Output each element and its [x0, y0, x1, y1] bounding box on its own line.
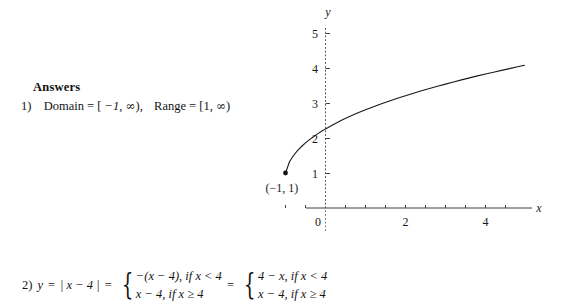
answer-1-index: 1) [21, 99, 31, 113]
answer-1-number: 1) [21, 99, 31, 113]
x-axis-label: x [535, 201, 542, 215]
y-tick-label-4: 4 [312, 62, 318, 76]
answer-2-equals-3: = [227, 278, 234, 293]
answer-2-case-1-line-1: −(x − 4), if x < 4 [136, 267, 222, 285]
endpoint-label: (−1, 1) [266, 181, 299, 195]
x-tick-label-4: 4 [483, 215, 489, 229]
answer-2-equals-2: = [105, 278, 112, 293]
answer-item-2: 2) y = | x − 4 | = { −(x − 4), if x < 4 … [22, 267, 327, 303]
y-axis-ticks [326, 34, 331, 174]
y-tick-label-1: 1 [312, 167, 318, 181]
answer-2-case-2-line-2: x − 4, if x ≥ 4 [258, 285, 327, 303]
answer-1-equals-1: = [87, 99, 94, 113]
page-title: Answers [33, 80, 80, 95]
function-graph: 5 4 3 2 1 0 2 4 y x (−1, 1) [262, 0, 572, 240]
answer-1-domain-lower: −1 [105, 99, 120, 113]
answer-1-separator: , [140, 99, 143, 113]
graph-svg: 5 4 3 2 1 0 2 4 y x (−1, 1) [262, 0, 572, 240]
answer-1-range-upper: ∞ [216, 99, 226, 113]
curve-sqrt-x-plus-1 [286, 65, 525, 173]
endpoint-marker [283, 171, 288, 176]
answer-2-case-1-line-2: x − 4, if x ≥ 4 [136, 285, 222, 303]
answer-1-domain-label: Domain [44, 99, 84, 113]
y-tick-label-3: 3 [312, 97, 318, 111]
worksheet-answers-page: Answers 1) Domain = [ −1, ∞), Range = [1… [0, 0, 572, 308]
answer-2-index: 2) [22, 278, 32, 293]
answer-1-domain-upper: ∞ [126, 99, 136, 113]
left-brace-icon-2: { [244, 269, 256, 299]
answer-1-domain-open: [ [97, 99, 101, 113]
x-tick-label-0: 0 [315, 215, 321, 229]
y-axis-label: y [324, 5, 331, 19]
answer-item-1: 1) Domain = [ −1, ∞), Range = [1, ∞) [21, 99, 230, 114]
x-tick-label-2: 2 [403, 215, 409, 229]
answer-2-piecewise-2: { 4 − x, if x < 4 x − 4, if x ≥ 4 [239, 267, 327, 303]
answer-1-range-comma: , [210, 99, 213, 113]
answer-2-lhs: y [37, 278, 43, 293]
y-tick-label-5: 5 [312, 27, 318, 41]
answer-2-equals-1: = [48, 278, 55, 293]
answer-2-abs-expression: | x − 4 | [60, 278, 100, 293]
answer-2-piecewise-1: { −(x − 4), if x < 4 x − 4, if x ≥ 4 [117, 267, 222, 303]
answer-1-domain-comma: , [119, 99, 122, 113]
answer-2-case-2-line-1: 4 − x, if x < 4 [258, 267, 327, 285]
answer-1-range-close: ) [226, 99, 230, 113]
answer-1-equals-2: = [189, 99, 196, 113]
left-brace-icon: { [121, 269, 133, 299]
answer-1-range-label: Range [154, 99, 186, 113]
